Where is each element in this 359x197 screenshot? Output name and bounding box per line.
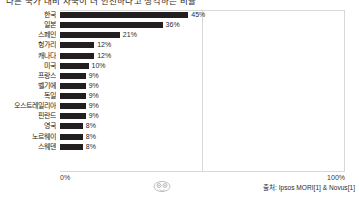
chart-title: 다른 국가 대비 자국이 더 안전하다고 생각하는 비율: [6, 0, 353, 6]
bar-category-label: 스페인: [0, 30, 56, 40]
bar-value-label: 45%: [191, 10, 205, 20]
bar-row: 독일9%: [0, 91, 359, 101]
bar-row: 일본36%: [0, 20, 359, 30]
bar-chart: 다른 국가 대비 자국이 더 안전하다고 생각하는 비율 한국45%일본36%스…: [0, 0, 359, 197]
bar-row: 한국45%: [0, 10, 359, 20]
bar-row: 스페인21%: [0, 30, 359, 40]
bar-category-label: 캐나다: [0, 51, 56, 61]
bar-row: 캐나다12%: [0, 51, 359, 61]
bar-row: 오스트레일리아9%: [0, 101, 359, 111]
bar-row: 영국8%: [0, 121, 359, 131]
bar: [60, 123, 83, 129]
bar-value-label: 9%: [89, 111, 99, 121]
bar-value-label: 12%: [97, 40, 111, 50]
bar: [60, 113, 86, 119]
bar-value-label: 36%: [166, 20, 180, 30]
axis-tick-min: 0%: [60, 174, 70, 181]
bar: [60, 53, 94, 59]
bar-value-label: 9%: [89, 71, 99, 81]
bar-row: 노르웨이8%: [0, 132, 359, 142]
bar-category-label: 핀란드: [0, 111, 56, 121]
bar-value-label: 9%: [89, 91, 99, 101]
source-note: 출처: Ipsos MORI[1] & Novus[1]: [263, 183, 355, 192]
bar-value-label: 8%: [86, 121, 96, 131]
bar-value-label: 21%: [123, 30, 137, 40]
bar-category-label: 일본: [0, 20, 56, 30]
bar: [60, 42, 94, 48]
bar: [60, 83, 86, 89]
bar-category-label: 노르웨이: [0, 132, 56, 142]
bar-value-label: 8%: [86, 142, 96, 152]
bar-row: 헝가리12%: [0, 40, 359, 50]
bar-category-label: 헝가리: [0, 40, 56, 50]
bar-category-label: 한국: [0, 10, 56, 20]
bar: [60, 22, 163, 28]
bar: [60, 73, 86, 79]
bar: [60, 63, 89, 69]
bar-row: 프랑스9%: [0, 71, 359, 81]
bar-category-label: 스웨덴: [0, 142, 56, 152]
bar: [60, 134, 83, 140]
bar: [60, 93, 86, 99]
axis-tick-max: 100%: [327, 174, 345, 181]
bar-category-label: 독일: [0, 91, 56, 101]
bar-row: 미국10%: [0, 61, 359, 71]
bar: [60, 12, 188, 18]
owl-watermark-icon: [153, 179, 171, 192]
bar-category-label: 미국: [0, 61, 56, 71]
bar-value-label: 8%: [86, 132, 96, 142]
bar-category-label: 오스트레일리아: [0, 101, 56, 111]
bar-value-label: 10%: [92, 61, 106, 71]
bar: [60, 32, 120, 38]
bar-value-label: 12%: [97, 51, 111, 61]
bar-row: 핀란드9%: [0, 111, 359, 121]
bar: [60, 144, 83, 150]
bar: [60, 103, 86, 109]
bar-value-label: 9%: [89, 101, 99, 111]
bar-rows: 한국45%일본36%스페인21%헝가리12%캐나다12%미국10%프랑스9%벨기…: [0, 10, 359, 172]
bar-row: 스웨덴8%: [0, 142, 359, 152]
bar-category-label: 영국: [0, 121, 56, 131]
bar-row: 벨기에9%: [0, 81, 359, 91]
bar-category-label: 벨기에: [0, 81, 56, 91]
bar-category-label: 프랑스: [0, 71, 56, 81]
bar-value-label: 9%: [89, 81, 99, 91]
